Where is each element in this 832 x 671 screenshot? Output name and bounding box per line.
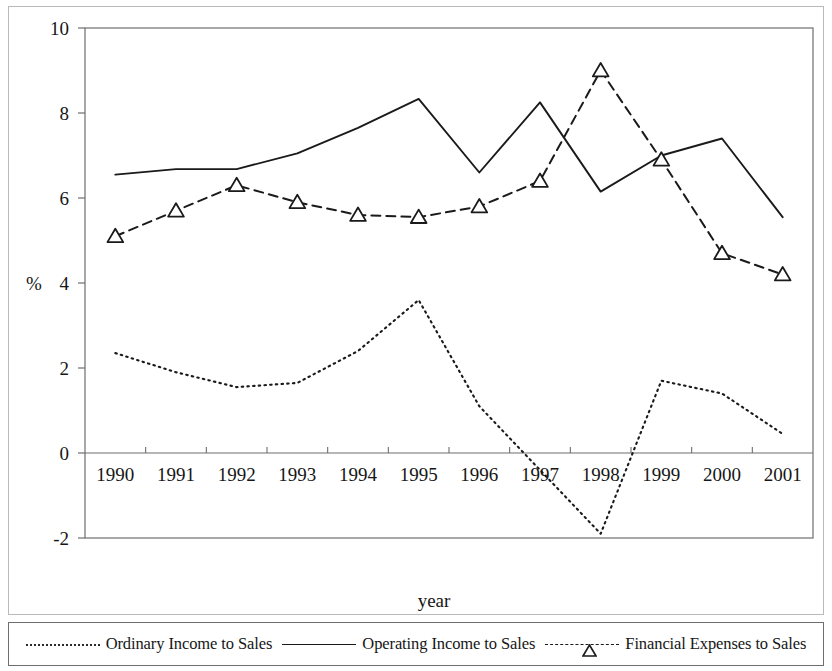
data-point-marker-triangle — [107, 229, 123, 242]
legend-item-financial-expenses: Financial Expenses to Sales — [545, 634, 806, 654]
x-tick-label: 1992 — [218, 464, 256, 485]
x-tick-label: 1994 — [339, 464, 378, 485]
data-point-marker-triangle — [532, 174, 548, 187]
data-point-marker-triangle — [229, 178, 245, 191]
legend-items: Ordinary Income to Sales Operating Incom… — [9, 634, 823, 654]
data-point-marker-triangle — [471, 199, 487, 212]
plot-frame — [85, 28, 813, 538]
series-line-1 — [115, 300, 782, 534]
data-point-marker-triangle — [775, 267, 791, 280]
legend-swatch-dashed-triangle-icon — [545, 637, 619, 651]
x-tick-label: 1999 — [642, 464, 680, 485]
x-axis-tick-labels: 1990199119921993199419951996199719981999… — [96, 464, 801, 485]
legend-label-financial-expenses: Financial Expenses to Sales — [625, 634, 806, 654]
data-point-marker-triangle — [593, 63, 609, 76]
x-tick-label: 1995 — [400, 464, 438, 485]
x-tick-label: 1990 — [96, 464, 134, 485]
y-tick-label: 0 — [60, 443, 70, 464]
y-axis-title: % — [26, 273, 42, 294]
y-axis-ticks — [78, 28, 85, 538]
legend-swatch-solid-icon — [282, 637, 356, 651]
y-tick-label: 2 — [60, 358, 70, 379]
x-axis-ticks — [146, 447, 753, 453]
y-tick-label: 10 — [50, 18, 69, 39]
chart-canvas: 1990199119921993199419951996199719981999… — [0, 0, 832, 671]
y-axis-tick-labels: -20246810 — [50, 18, 70, 549]
x-tick-label: 2000 — [703, 464, 741, 485]
x-tick-label: 1991 — [157, 464, 195, 485]
x-tick-label: 1996 — [460, 464, 498, 485]
x-tick-label: 1998 — [582, 464, 620, 485]
x-tick-label: 1993 — [278, 464, 316, 485]
x-tick-label: 2001 — [764, 464, 802, 485]
data-point-marker-triangle — [714, 246, 730, 259]
legend-item-ordinary-income: Ordinary Income to Sales — [26, 634, 273, 654]
chart-figure: 1990199119921993199419951996199719981999… — [0, 0, 832, 671]
x-tick-label: 1997 — [521, 464, 559, 485]
series-line-3 — [115, 71, 782, 275]
series-line-2 — [115, 99, 782, 217]
legend-item-operating-income: Operating Income to Sales — [282, 634, 535, 654]
legend-label-ordinary-income: Ordinary Income to Sales — [106, 634, 273, 654]
line-chart-svg: 1990199119921993199419951996199719981999… — [0, 0, 832, 671]
y-tick-label: 8 — [60, 103, 70, 124]
legend-swatch-dotted-icon — [26, 637, 100, 651]
axis-titles: %year — [26, 273, 451, 611]
data-point-marker-triangle — [350, 208, 366, 221]
data-series-group — [107, 63, 790, 534]
y-tick-label: -2 — [53, 528, 69, 549]
x-axis-title: year — [418, 590, 451, 611]
data-point-marker-triangle — [168, 203, 184, 216]
y-tick-label: 4 — [60, 273, 70, 294]
y-tick-label: 6 — [60, 188, 70, 209]
chart-legend: Ordinary Income to Sales Operating Incom… — [8, 622, 824, 666]
legend-label-operating-income: Operating Income to Sales — [362, 634, 535, 654]
